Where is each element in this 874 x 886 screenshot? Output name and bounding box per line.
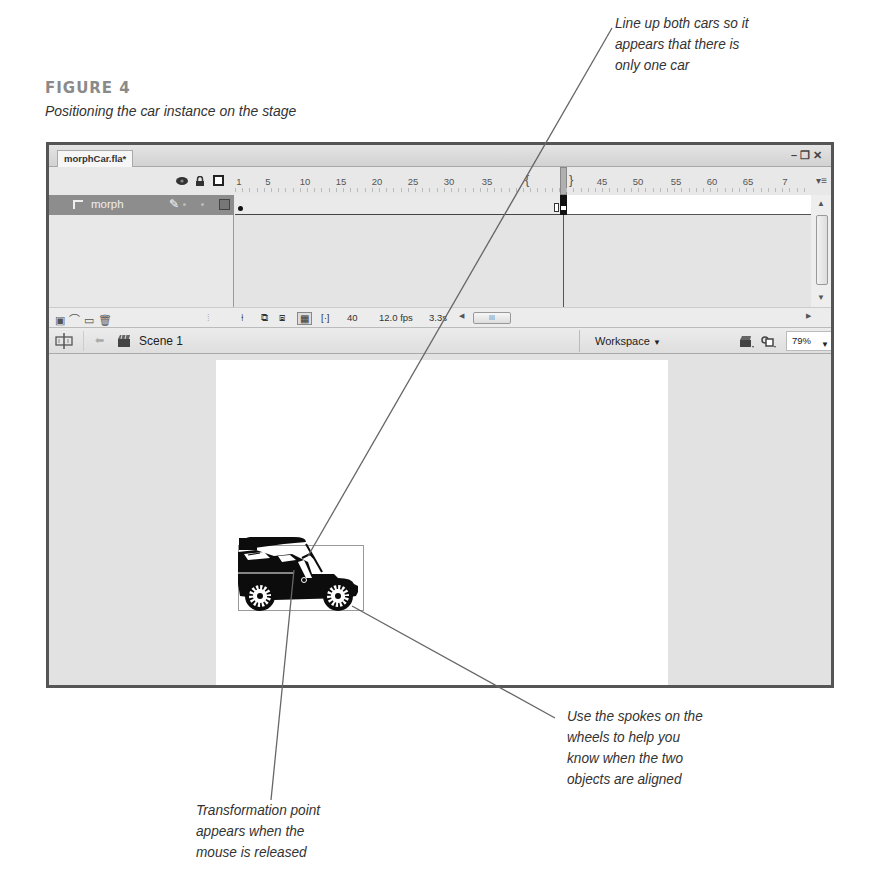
- pasteboard[interactable]: [49, 354, 831, 688]
- divider: [83, 331, 84, 351]
- selected-keyframe-40[interactable]: [560, 195, 567, 215]
- hscroll-thumb[interactable]: III: [473, 312, 511, 324]
- layer-row-morph[interactable]: morph ✎: [49, 195, 831, 215]
- playhead-line: [563, 215, 564, 307]
- scene-name[interactable]: Scene 1: [139, 334, 183, 348]
- callout-line: wheels to help you: [567, 726, 703, 747]
- stage[interactable]: [216, 360, 668, 685]
- ruler-label: 35: [482, 176, 493, 187]
- layer-name-cell[interactable]: morph ✎: [49, 195, 234, 215]
- scroll-thumb[interactable]: [816, 215, 828, 285]
- ruler-label: 20: [372, 176, 383, 187]
- edit-bar: ⬅ Scene 1 Workspace ▼ 79% ▼: [49, 327, 831, 354]
- onion-skin-icon[interactable]: ⧉: [261, 312, 268, 324]
- layers-empty-area: [49, 215, 234, 307]
- document-tab[interactable]: morphCar.fla*: [57, 150, 133, 168]
- callout-line: know when the two: [567, 747, 703, 768]
- new-layer-icon[interactable]: ▣: [55, 314, 69, 326]
- timeline-panel: 1 5 10 15 20 25 30 35 { } 45 50 55 60 65…: [49, 167, 831, 327]
- callout-line-up: Line up both cars so it appears that the…: [615, 12, 748, 75]
- layer-frames[interactable]: [235, 195, 811, 215]
- visibility-dot[interactable]: [183, 203, 186, 206]
- timeline-toggle-icon[interactable]: [55, 333, 73, 349]
- panel-menu-icon[interactable]: ▾≡: [816, 175, 827, 186]
- ruler-label: 65: [743, 176, 754, 187]
- callout-line: appears when the: [196, 820, 320, 841]
- frame-span[interactable]: [235, 195, 565, 215]
- edit-symbols-icon[interactable]: [761, 334, 777, 348]
- current-frame-value: 40: [347, 312, 358, 323]
- workspace-label: Workspace: [595, 335, 650, 347]
- callout-line: Use the spokes on the: [567, 705, 703, 726]
- callout-line: only one car: [615, 54, 748, 75]
- keyframe-1[interactable]: [238, 206, 243, 211]
- timeline-horizontal-scrollbar[interactable]: ◀ III ▶: [459, 312, 811, 324]
- onion-skin-end-marker[interactable]: }: [569, 172, 573, 187]
- eye-icon[interactable]: [176, 176, 188, 186]
- minimize-icon[interactable]: –: [791, 149, 800, 161]
- callout-wheel-spokes: Use the spokes on the wheels to help you…: [567, 705, 703, 789]
- frames-empty-area: [235, 215, 811, 307]
- onion-skin-start-marker[interactable]: {: [525, 172, 529, 187]
- end-frame-marker: [554, 203, 559, 212]
- callout-line: Transformation point: [196, 799, 320, 820]
- zoom-level-select[interactable]: 79% ▼: [786, 331, 834, 351]
- layer-tools: ▣⌒▭🗑: [55, 311, 116, 327]
- ruler-ticks: [235, 188, 811, 192]
- elapsed-time-value: 3.3s: [429, 312, 447, 323]
- onion-skin-outlines-icon[interactable]: ⧈: [279, 312, 285, 324]
- front-wheel: [323, 581, 353, 611]
- outline-icon[interactable]: [213, 175, 224, 186]
- layer-icon: [73, 200, 83, 209]
- rear-wheel: [245, 581, 275, 611]
- frame-rate-value[interactable]: 12.0 fps: [379, 312, 413, 323]
- restore-icon[interactable]: ❐: [800, 149, 813, 161]
- modify-markers-icon[interactable]: [·]: [321, 312, 329, 323]
- delete-layer-icon[interactable]: 🗑: [98, 314, 116, 326]
- figure-caption: Positioning the car instance on the stag…: [45, 102, 296, 120]
- scroll-right-icon[interactable]: ▶: [806, 312, 811, 320]
- workspace-menu-button[interactable]: Workspace ▼: [595, 335, 661, 347]
- ruler-label: 15: [336, 176, 347, 187]
- layer-header: [49, 167, 234, 195]
- chevron-down-icon: ▼: [821, 340, 829, 349]
- figure-label: FIGURE 4: [45, 79, 131, 97]
- motion-guide-icon[interactable]: ⌒: [69, 314, 84, 326]
- ruler-label: 30: [444, 176, 455, 187]
- frame-ruler[interactable]: 1 5 10 15 20 25 30 35 { } 45 50 55 60 65…: [235, 167, 811, 195]
- timeline-empty-area: [49, 215, 831, 307]
- ruler-label: 10: [300, 176, 311, 187]
- layer-name[interactable]: morph: [91, 198, 124, 210]
- new-folder-icon[interactable]: ▭: [84, 314, 98, 326]
- edit-scene-icon[interactable]: [739, 334, 755, 348]
- resize-handle-icon[interactable]: ⁞: [207, 312, 210, 323]
- timeline-status-bar: ▣⌒▭🗑 ⁞ ⍿ ⧉ ⧈ ▦ [·] 40 12.0 fps 3.3s ◀ II…: [49, 307, 831, 327]
- scene-clapper-icon: [117, 334, 131, 347]
- scroll-left-icon[interactable]: ◀: [459, 312, 464, 320]
- flash-document-window: morphCar.fla* –❐✕ 1 5 10 15 20 25 30 35 …: [46, 142, 834, 688]
- pencil-icon: ✎: [169, 197, 179, 211]
- callout-transformation-point: Transformation point appears when the mo…: [196, 799, 320, 862]
- callout-line: objects are aligned: [567, 768, 703, 789]
- scroll-up-icon[interactable]: ▲: [817, 199, 825, 208]
- chevron-down-icon: ▼: [653, 338, 661, 347]
- scroll-down-icon[interactable]: ▼: [817, 293, 825, 302]
- ruler-label: 60: [707, 176, 718, 187]
- ruler-label: 5: [265, 176, 270, 187]
- ruler-label: 55: [671, 176, 682, 187]
- car-instance[interactable]: [234, 528, 366, 614]
- lock-dot[interactable]: [201, 203, 204, 206]
- ruler-label: 7: [782, 176, 787, 187]
- edit-multiple-frames-icon[interactable]: ▦: [297, 312, 312, 325]
- ruler-label: 50: [633, 176, 644, 187]
- outline-color-box[interactable]: [219, 199, 230, 210]
- timeline-vertical-scrollbar[interactable]: ▲ ▼: [811, 195, 831, 307]
- document-tab-bar: morphCar.fla* –❐✕: [49, 145, 831, 167]
- center-frame-icon[interactable]: ⍿: [241, 312, 244, 324]
- callout-line: Line up both cars so it: [615, 12, 748, 33]
- window-controls: –❐✕: [791, 149, 825, 162]
- close-icon[interactable]: ✕: [813, 149, 825, 161]
- lock-icon[interactable]: [195, 176, 205, 186]
- callout-line: mouse is released: [196, 841, 320, 862]
- back-arrow-icon[interactable]: ⬅: [95, 334, 104, 347]
